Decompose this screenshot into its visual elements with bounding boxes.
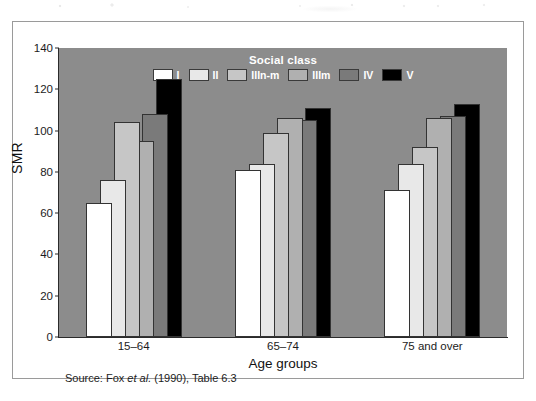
figure-frame: Social class IIIIIIn-mIIImIVV 0204060801… xyxy=(12,21,524,379)
x-axis-title: Age groups xyxy=(59,356,507,371)
x-axis-category-label: 15–64 xyxy=(118,340,150,352)
y-axis-tick-mark xyxy=(55,337,59,338)
y-axis-tick-mark xyxy=(55,130,59,131)
y-axis-title: SMR xyxy=(9,142,25,174)
source-note: Source: Fox et al. (1990), Table 6.3 xyxy=(65,372,237,384)
bar xyxy=(384,190,410,337)
y-axis-tick-mark xyxy=(55,89,59,90)
bar xyxy=(86,203,112,337)
scan-noise-band xyxy=(0,0,536,16)
y-axis-tick-mark xyxy=(55,48,59,49)
y-axis-tick-mark xyxy=(55,295,59,296)
y-axis-tick-mark xyxy=(55,213,59,214)
bar xyxy=(235,170,261,337)
x-axis-line xyxy=(58,337,508,338)
y-axis-tick-mark xyxy=(55,171,59,172)
source-note-italic: et al. xyxy=(127,372,151,384)
bars-container xyxy=(59,48,507,337)
plot-area: Social class IIIIIIn-mIIImIVV xyxy=(59,48,507,337)
y-axis-tick-mark xyxy=(55,254,59,255)
x-axis-category-label: 75 and over xyxy=(402,340,463,352)
x-axis-category-label: 65–74 xyxy=(267,340,299,352)
